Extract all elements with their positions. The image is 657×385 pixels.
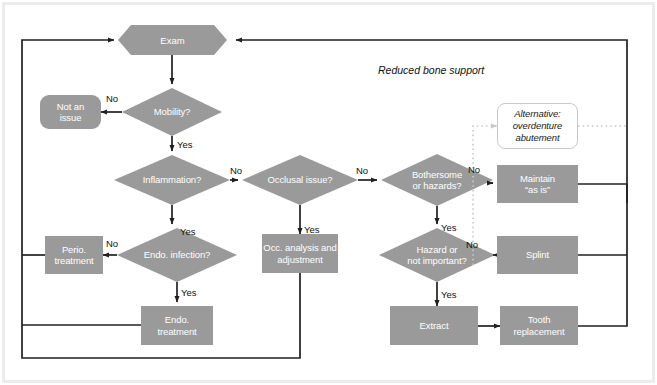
edge-label-inflammation-no: No — [230, 165, 242, 176]
node-occ-analysis[interactable]: Occ. analysis and adjustment — [262, 234, 338, 273]
edge-label-bothersome-no: No — [468, 164, 480, 175]
node-exam[interactable]: Exam — [118, 25, 227, 55]
edge-label-hazard-no: No — [466, 239, 478, 250]
node-occlusal-issue-label: Occlusal issue? — [267, 174, 332, 186]
edge-label-bothersome-yes: Yes — [441, 222, 457, 233]
edge-label-endo-yes: Yes — [181, 287, 197, 298]
node-extract-label: Extract — [420, 320, 449, 332]
node-splint-label: Splint — [526, 249, 549, 261]
flowchart-page: Exam Not an issue Mobility? Inflammation… — [0, 0, 657, 385]
edge-label-endo-no: No — [106, 238, 118, 249]
node-endo-infection-label: Endo. infection? — [144, 249, 211, 261]
edge-label-inflammation-yes: Yes — [180, 226, 196, 237]
caption-reduced-bone-support: Reduced bone support — [378, 64, 484, 76]
node-tooth-replacement[interactable]: Tooth replacement — [500, 306, 578, 345]
node-bothersome-or-hazards-label: Bothersome or hazards? — [412, 169, 462, 192]
node-mobility-label: Mobility? — [154, 106, 191, 118]
node-hazard-or-not-important[interactable]: Hazard or not important? — [379, 228, 495, 282]
node-inflammation-label: Inflammation? — [143, 174, 201, 186]
edge-label-hazard-yes: Yes — [441, 289, 457, 300]
node-occ-analysis-label: Occ. analysis and adjustment — [263, 242, 336, 265]
node-extract[interactable]: Extract — [390, 306, 478, 345]
node-perio-treatment[interactable]: Perio. treatment — [45, 236, 103, 274]
node-maintain-as-is[interactable]: Maintain “as is” — [497, 165, 578, 203]
edge-label-occlusal-no: No — [356, 165, 368, 176]
node-alternative-overdenture[interactable]: Alternative: overdenture abutement — [497, 103, 578, 149]
node-not-an-issue-label: Not an issue — [57, 101, 84, 124]
node-bothersome-or-hazards[interactable]: Bothersome or hazards? — [381, 154, 493, 206]
node-endo-treatment[interactable]: Endo. treatment — [141, 306, 213, 345]
node-alternative-overdenture-label: Alternative: overdenture abutement — [513, 108, 563, 144]
node-splint[interactable]: Splint — [497, 236, 578, 274]
node-endo-treatment-label: Endo. treatment — [157, 314, 196, 337]
node-exam-label: Exam — [160, 35, 184, 46]
node-tooth-replacement-label: Tooth replacement — [513, 314, 564, 337]
node-inflammation[interactable]: Inflammation? — [114, 155, 230, 205]
edge-label-mobility-yes: Yes — [177, 139, 193, 150]
node-not-an-issue[interactable]: Not an issue — [40, 95, 101, 129]
node-mobility[interactable]: Mobility? — [122, 88, 222, 136]
edge-label-mobility-no: No — [106, 93, 118, 104]
node-hazard-or-not-important-label: Hazard or not important? — [407, 244, 466, 267]
edge-label-occlusal-yes: Yes — [304, 224, 320, 235]
node-perio-treatment-label: Perio. treatment — [54, 244, 93, 267]
node-endo-infection[interactable]: Endo. infection? — [117, 228, 237, 282]
node-maintain-as-is-label: Maintain “as is” — [520, 173, 555, 196]
node-occlusal-issue[interactable]: Occlusal issue? — [242, 155, 358, 205]
